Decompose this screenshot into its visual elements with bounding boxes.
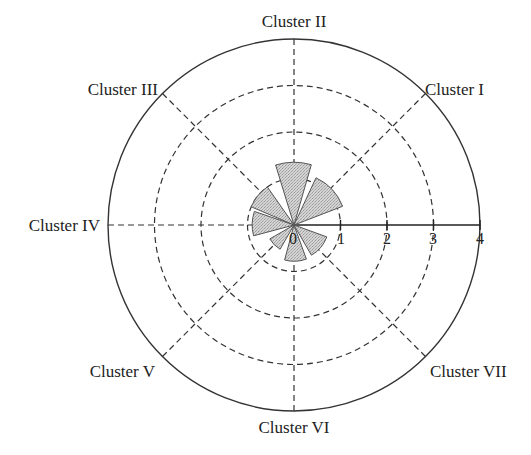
label-cluster-3: Cluster III [88,80,159,99]
label-cluster-5: Cluster V [90,362,156,381]
tick-label-2: 2 [383,230,391,247]
tick-label-4: 4 [476,230,484,247]
label-cluster-7: Cluster VII [430,362,507,381]
tick-label-3: 3 [429,230,437,247]
label-cluster-6: Cluster VI [259,418,330,437]
label-cluster-2: Cluster II [262,12,327,31]
label-cluster-1: Cluster I [425,80,484,99]
label-cluster-4: Cluster IV [29,216,101,235]
polar-chart: 0 1 2 3 4 Cluster II Cluster I Cluster I… [0,0,531,455]
tick-label-1: 1 [337,230,345,247]
radial-axis [294,220,480,230]
tick-label-0: 0 [289,230,297,247]
